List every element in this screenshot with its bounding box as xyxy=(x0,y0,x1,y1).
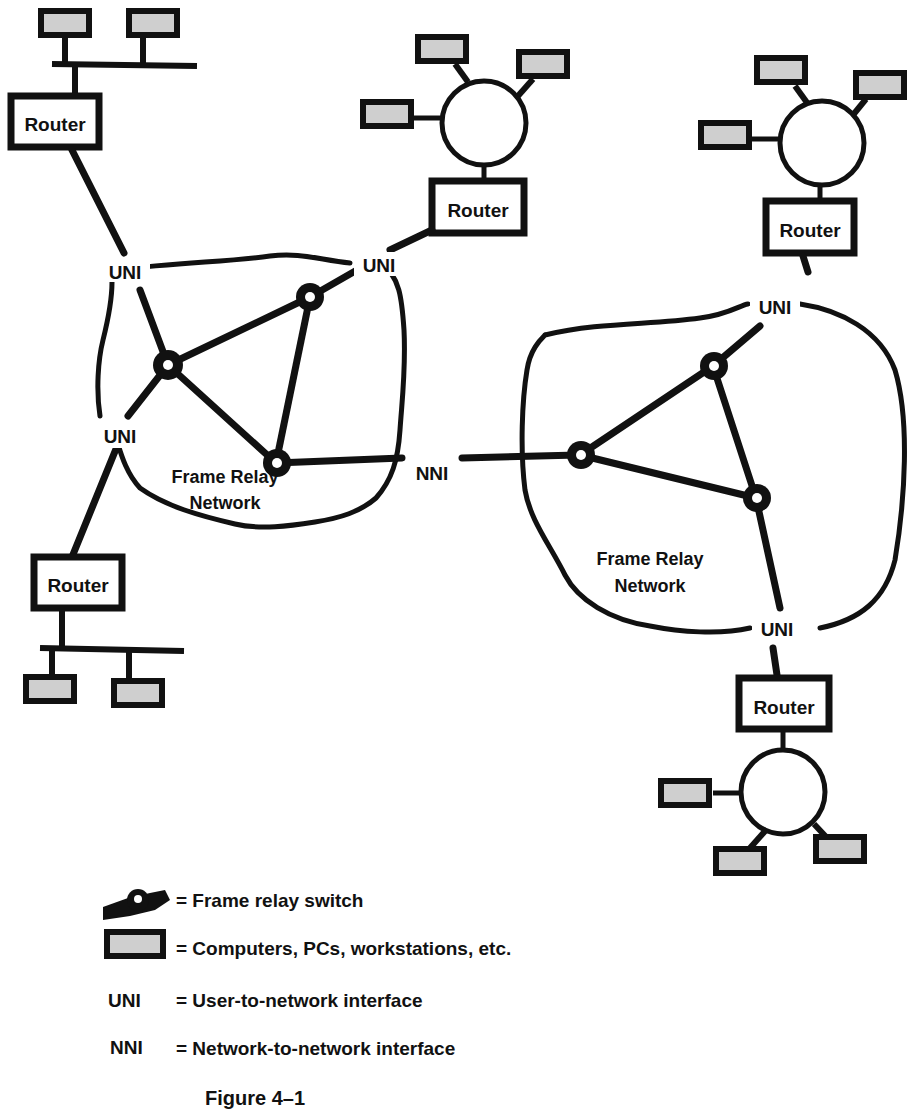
router-label: Router xyxy=(47,575,109,596)
uni-label: UNI xyxy=(759,297,792,318)
frame-relay-switch-icon xyxy=(103,889,170,920)
computer-icon xyxy=(713,846,767,876)
legend-switch-text: = Frame relay switch xyxy=(176,890,363,911)
network-label: Frame Relay xyxy=(171,467,278,487)
router-bottom-right: Router xyxy=(739,678,829,729)
router-top-left: Router xyxy=(11,96,99,147)
computer-icon xyxy=(360,99,414,129)
legend-nni-key: NNI xyxy=(110,1037,143,1058)
network-label: Network xyxy=(189,493,261,513)
legend-uni-text: = User-to-network interface xyxy=(176,990,423,1011)
computer-icon xyxy=(104,929,166,959)
router-label: Router xyxy=(779,220,841,241)
network-label: Frame Relay xyxy=(596,549,703,569)
computer-icon xyxy=(38,8,92,38)
computer-icon xyxy=(698,120,752,150)
legend-uni-key: UNI xyxy=(108,990,141,1011)
lan-bottom-right xyxy=(658,732,867,876)
lan-top-middle xyxy=(360,34,570,180)
computer-icon xyxy=(658,778,712,808)
router-top-right: Router xyxy=(766,201,854,253)
router-bottom-left: Router xyxy=(34,557,122,608)
frame-relay-switch-icon xyxy=(263,449,291,477)
computer-icon xyxy=(111,678,165,708)
nni-label: NNI xyxy=(416,463,449,484)
legend-nni-text: = Network-to-network interface xyxy=(176,1038,455,1059)
computer-icon xyxy=(516,49,570,79)
computer-icon xyxy=(813,834,867,864)
router-top-middle: Router xyxy=(432,181,524,233)
legend-computer-text: = Computers, PCs, workstations, etc. xyxy=(176,938,511,959)
router-label: Router xyxy=(753,697,815,718)
uni-label: UNI xyxy=(104,426,137,447)
router-label: Router xyxy=(24,114,86,135)
interface-labels: UNI UNI UNI NNI UNI UNI xyxy=(95,252,802,640)
frame-relay-diagram: Router Router Router Frame Relay Network… xyxy=(0,0,916,1111)
frame-relay-switch-icon xyxy=(296,283,324,311)
computer-icon xyxy=(415,34,469,64)
legend: = Frame relay switch = Computers, PCs, w… xyxy=(103,889,511,1059)
lan-top-left xyxy=(38,8,197,96)
lan-bottom-left xyxy=(23,611,184,708)
computer-icon xyxy=(754,55,808,85)
uni-label: UNI xyxy=(363,255,396,276)
uni-label: UNI xyxy=(109,262,142,283)
computer-icon xyxy=(126,8,180,38)
network-label: Network xyxy=(614,576,686,596)
figure-caption: Figure 4–1 xyxy=(205,1087,305,1109)
left-switch-links xyxy=(128,270,578,463)
router-label: Router xyxy=(447,200,509,221)
frame-relay-switch-icon xyxy=(153,350,183,380)
lan-top-right xyxy=(698,55,907,200)
computer-icon xyxy=(23,674,77,704)
computer-icon xyxy=(853,70,907,100)
uni-label: UNI xyxy=(761,619,794,640)
frame-relay-switch-icon xyxy=(567,441,595,469)
frame-relay-switch-icon xyxy=(700,352,728,380)
frame-relay-switch-icon xyxy=(743,484,771,512)
